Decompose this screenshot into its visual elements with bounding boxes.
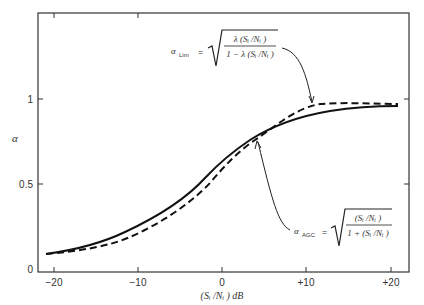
x-tick-label-neg10: −10 xyxy=(130,277,147,288)
agc-curve xyxy=(46,106,398,254)
x-axis xyxy=(54,13,391,272)
y-axis xyxy=(38,99,409,184)
svg-text:Lim: Lim xyxy=(179,52,189,58)
y-tick-label-0: 0 xyxy=(27,264,33,275)
x-tick-label-20: +20 xyxy=(383,277,400,288)
svg-text:λ (Sᵢ /Nᵢ ): λ (Sᵢ /Nᵢ ) xyxy=(233,34,267,44)
y-tick-label-1: 1 xyxy=(27,94,33,105)
svg-text:α: α xyxy=(294,226,299,236)
svg-text:α: α xyxy=(171,46,176,56)
lim-curve xyxy=(46,103,398,254)
agc-pointer-line xyxy=(258,142,290,230)
svg-text:AGC: AGC xyxy=(302,232,316,238)
svg-text:1 + (Sᵢ /Nᵢ ): 1 + (Sᵢ /Nᵢ ) xyxy=(347,228,388,238)
y-tick-label-0.5: 0.5 xyxy=(19,179,33,190)
lim-pointer-line xyxy=(282,48,312,102)
x-tick-label-neg20: −20 xyxy=(46,277,63,288)
svg-text:=: = xyxy=(322,227,327,237)
svg-text:(Sᵢ /Nᵢ ): (Sᵢ /Nᵢ ) xyxy=(355,213,381,223)
chart: 1 0.5 0 α −20 −10 0 +10 +20 (Sᵢ /Nᵢ ) dB… xyxy=(0,0,424,305)
y-axis-label: α xyxy=(12,132,18,144)
svg-text:=: = xyxy=(198,47,203,57)
x-tick-label-10: +10 xyxy=(298,277,315,288)
x-axis-label: (Sᵢ /Nᵢ ) dB xyxy=(201,290,244,302)
lim-formula: α Lim = λ (Sᵢ /Nᵢ ) 1 − λ (Sᵢ /Nᵢ ) xyxy=(171,30,278,66)
agc-formula: α AGC = (Sᵢ /Nᵢ ) 1 + (Sᵢ /Nᵢ ) xyxy=(294,209,392,246)
x-tick-label-0: 0 xyxy=(219,277,225,288)
svg-text:1 − λ (Sᵢ /Nᵢ ): 1 − λ (Sᵢ /Nᵢ ) xyxy=(226,49,274,59)
agc-pointer-arrow xyxy=(255,141,261,149)
